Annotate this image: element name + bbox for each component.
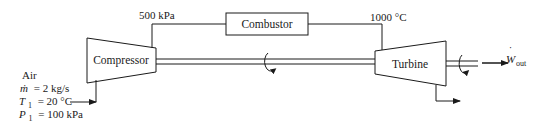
combustor-label: Combustor [241,18,292,30]
work-output-label: ˙ W out [506,44,527,68]
turbine: Turbine [375,41,446,86]
inlet-fluid-label: Air [22,69,37,81]
output-shaft [446,61,478,66]
work-symbol: W [506,53,516,65]
p1-value: = 100 kPa [38,108,83,120]
gas-turbine-diagram: Compressor Combustor Turbine ˙ W out [0,0,540,128]
mass-flow-label: ṁ = 2 kg/s [20,82,69,94]
work-subscript: out [516,59,527,68]
output-rotation-icon [459,55,467,73]
compressor-label: Compressor [93,54,149,67]
mass-flow-symbol: ṁ [20,82,28,94]
t1-symbol: T [19,95,26,107]
turbine-inlet-temperature-label: 1000 °C [370,11,407,23]
shaft [156,59,375,64]
shaft-rotation-icon [265,53,274,71]
p1-symbol: P [18,108,26,120]
mass-flow-value: = 2 kg/s [34,82,70,94]
inlet-conditions: Air ṁ = 2 kg/s T 1 = 20 °C P 1 = 100 kPa [18,69,83,123]
p1-subscript: 1 [28,114,32,123]
flow-line-compressor-to-combustor [152,24,226,48]
compressor: Compressor [87,38,156,83]
turbine-label: Turbine [392,58,428,70]
compressor-exit-pressure-label: 500 kPa [139,9,175,21]
t1-value: = 20 °C [38,95,72,107]
turbine-exhaust-line [436,85,460,101]
flow-line-combustor-to-turbine [308,24,382,50]
inlet-pressure-label: P 1 = 100 kPa [18,108,83,123]
combustor: Combustor [226,13,308,35]
